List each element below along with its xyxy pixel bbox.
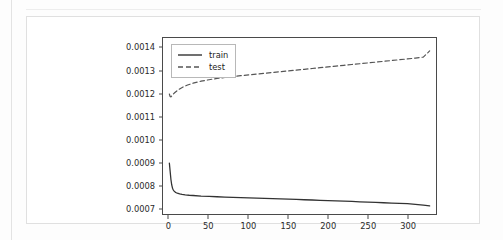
figure-card: 0.00070.00080.00090.00100.00110.00120.00… [26,16,480,224]
x-axis-tick-label: 250 [360,221,376,231]
legend-item-test: test [177,61,228,73]
legend-label-test: test [209,62,225,72]
page-margin-rule [11,0,12,240]
y-axis-tick-label: 0.0009 [126,158,155,168]
legend-label-train: train [209,50,228,60]
page-top-rule [26,9,481,10]
x-axis-tick-label: 150 [280,221,296,231]
legend-item-train: train [177,49,228,61]
x-axis-tick-mark [408,215,409,219]
y-axis-tick-label: 0.0013 [126,66,155,76]
x-axis-tick-mark [248,215,249,219]
x-axis-tick-label: 200 [320,221,336,231]
page-root: 0.00070.00080.00090.00100.00110.00120.00… [0,0,503,240]
y-axis-tick-label: 0.0011 [126,112,155,122]
plot-axes: train test [162,37,437,215]
y-axis-tick-label: 0.0012 [126,89,155,99]
y-axis-tick-label: 0.0014 [126,42,155,52]
x-axis-tick-mark [368,215,369,219]
chart-legend: train test [171,44,236,78]
x-axis-tick-label: 0 [166,221,171,231]
x-axis-tick-label: 50 [203,221,214,231]
x-axis-tick-mark [288,215,289,219]
x-axis-tick-group: 050100150200250300 [162,215,437,237]
x-axis-tick-mark [208,215,209,219]
y-axis-tick-group: 0.00070.00080.00090.00100.00110.00120.00… [27,17,162,223]
series-line-train [169,163,429,206]
x-axis-tick-label: 100 [240,221,256,231]
y-axis-tick-label: 0.0008 [126,181,155,191]
x-axis-tick-mark [168,215,169,219]
y-axis-tick-label: 0.0010 [126,135,155,145]
legend-line-dashed-icon [177,62,203,72]
x-axis-tick-mark [328,215,329,219]
y-axis-tick-label: 0.0007 [126,204,155,214]
x-axis-tick-label: 300 [400,221,416,231]
legend-line-solid-icon [177,50,203,60]
